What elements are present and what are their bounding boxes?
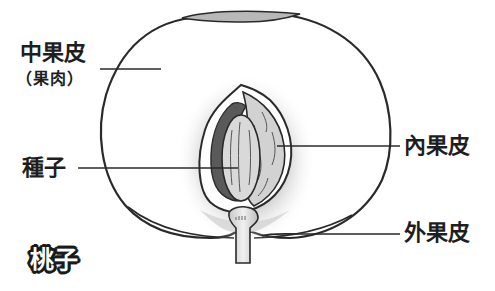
label-endocarp: 內果皮 — [404, 135, 470, 157]
label-mesocarp-note: （果肉） — [16, 71, 84, 87]
label-exocarp: 外果皮 — [404, 222, 470, 244]
label-seed: 種子 — [22, 157, 66, 179]
peach-diagram: 中果皮 （果肉） 種子 內果皮 外果皮 桃子 — [0, 0, 495, 291]
diagram-title: 桃子 — [30, 248, 78, 272]
seed — [222, 115, 260, 201]
label-mesocarp: 中果皮 — [20, 42, 86, 64]
